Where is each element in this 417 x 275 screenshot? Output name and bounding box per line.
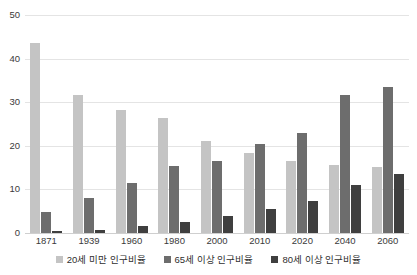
bar-group [366, 15, 409, 233]
bar[interactable] [30, 43, 40, 233]
bar[interactable] [73, 95, 83, 233]
bar-group [110, 15, 153, 233]
bar-group [281, 15, 324, 233]
legend-swatch-icon [164, 256, 171, 263]
x-axis-label: 2060 [366, 236, 409, 246]
legend-swatch-icon [56, 256, 63, 263]
bar-group [324, 15, 367, 233]
bar[interactable] [223, 216, 233, 233]
bar[interactable] [266, 209, 276, 233]
bar-group [25, 15, 68, 233]
bar[interactable] [372, 167, 382, 233]
bar[interactable] [84, 198, 94, 233]
bar[interactable] [297, 133, 307, 233]
y-axis-label: 30 [9, 97, 20, 107]
bar-group [153, 15, 196, 233]
bar-chart: 01020304050 1871193919601980200020102020… [0, 0, 417, 275]
legend-label: 20세 미만 인구비율 [67, 255, 146, 265]
bars-layer [25, 15, 409, 233]
bar-group [68, 15, 111, 233]
bar[interactable] [383, 87, 393, 233]
bar[interactable] [52, 231, 62, 233]
bar[interactable] [116, 110, 126, 233]
bar[interactable] [138, 226, 148, 233]
y-axis-label: 0 [15, 228, 20, 238]
x-axis-ticks: 187119391960198020002010202020402060 [25, 236, 409, 246]
x-axis-label: 2000 [196, 236, 239, 246]
bar[interactable] [158, 118, 168, 233]
x-axis-label: 2010 [238, 236, 281, 246]
bar[interactable] [308, 201, 318, 233]
legend-swatch-icon [271, 256, 278, 263]
bar[interactable] [394, 174, 404, 233]
x-axis-label: 2040 [324, 236, 367, 246]
legend-item[interactable]: 80세 이상 인구비율 [271, 255, 361, 265]
bar[interactable] [201, 141, 211, 233]
y-axis-label: 10 [9, 185, 20, 195]
x-axis-label: 1939 [68, 236, 111, 246]
plot-area: 01020304050 [25, 15, 409, 233]
bar[interactable] [212, 161, 222, 233]
x-axis-label: 2020 [281, 236, 324, 246]
bar-group [196, 15, 239, 233]
bar[interactable] [127, 183, 137, 233]
bar[interactable] [95, 230, 105, 233]
chart-legend: 20세 미만 인구비율65세 이상 인구비율80세 이상 인구비율 [0, 255, 417, 265]
y-axis-label: 20 [9, 141, 20, 151]
y-axis-label: 50 [9, 10, 20, 20]
legend-item[interactable]: 65세 이상 인구비율 [164, 255, 254, 265]
bar[interactable] [329, 165, 339, 233]
x-axis-label: 1871 [25, 236, 68, 246]
bar[interactable] [351, 185, 361, 233]
y-axis-label: 40 [9, 54, 20, 64]
bar[interactable] [340, 95, 350, 233]
x-axis-label: 1980 [153, 236, 196, 246]
bar[interactable] [41, 212, 51, 233]
bar[interactable] [244, 153, 254, 233]
legend-item[interactable]: 20세 미만 인구비율 [56, 255, 146, 265]
bar[interactable] [180, 222, 190, 233]
legend-label: 80세 이상 인구비율 [282, 255, 361, 265]
bar[interactable] [169, 166, 179, 233]
bar[interactable] [286, 161, 296, 233]
bar[interactable] [255, 144, 265, 233]
legend-label: 65세 이상 인구비율 [175, 255, 254, 265]
x-axis-label: 1960 [110, 236, 153, 246]
gridline-0 [25, 233, 409, 234]
bar-group [238, 15, 281, 233]
